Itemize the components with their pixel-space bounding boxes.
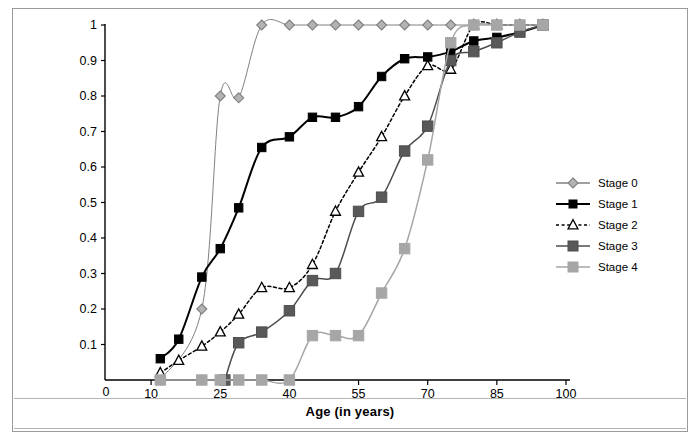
data-point-stage-0	[197, 304, 207, 314]
y-tick-label: 0.6	[80, 160, 97, 174]
data-point-stage-4	[399, 243, 409, 253]
data-point-stage-1	[156, 355, 164, 363]
data-point-stage-4	[197, 375, 207, 385]
y-tick-label: 1	[90, 18, 97, 32]
legend-marker-icon	[568, 178, 578, 188]
legend-label: Stage 1	[598, 198, 638, 210]
legend-key-diamond-icon	[552, 176, 594, 190]
y-tick-label: 0.1	[80, 338, 97, 352]
data-point-stage-0	[354, 20, 364, 30]
data-point-stage-2	[423, 60, 433, 69]
legend-label: Stage 2	[598, 219, 638, 231]
y-tick-label: 0.8	[80, 89, 97, 103]
y-tick-label: 0.2	[80, 302, 97, 316]
data-point-stage-3	[469, 46, 479, 56]
data-point-stage-0	[234, 93, 244, 103]
data-point-stage-0	[400, 20, 410, 30]
series-line	[160, 22, 543, 373]
data-point-stage-4	[215, 375, 225, 385]
data-point-stage-1	[377, 72, 385, 80]
data-point-stage-1	[354, 102, 362, 110]
data-point-stage-1	[285, 133, 293, 141]
data-point-stage-4	[353, 330, 363, 340]
data-point-stage-2	[354, 167, 364, 176]
data-point-stage-3	[423, 121, 433, 131]
data-point-stage-2	[377, 131, 387, 140]
legend-key-triangle-icon	[552, 218, 594, 232]
x-axis-title: Age (in years)	[0, 404, 700, 419]
divider-below-axis-title	[14, 428, 686, 429]
data-point-stage-2	[215, 327, 225, 336]
data-point-stage-3	[376, 192, 386, 202]
chart-legend: Stage 0 Stage 1 Stage 2 Stage 3 Stage 4	[552, 172, 672, 277]
legend-key-square-icon	[552, 197, 594, 211]
data-point-stage-4	[307, 330, 317, 340]
series-line	[160, 25, 543, 359]
data-point-stage-1	[198, 273, 206, 281]
data-point-stage-3	[353, 206, 363, 216]
data-point-stage-4	[446, 38, 456, 48]
data-point-stage-3	[399, 146, 409, 156]
data-point-stage-4	[538, 20, 548, 30]
data-point-stage-4	[469, 20, 479, 30]
data-point-stage-0	[377, 20, 387, 30]
data-point-stage-3	[233, 338, 243, 348]
series-stage-4	[155, 20, 548, 385]
y-tick-label: 0.7	[80, 125, 97, 139]
legend-key-square-icon	[552, 239, 594, 253]
data-point-stage-2	[197, 341, 207, 350]
data-series	[155, 20, 548, 386]
data-point-stage-4	[492, 20, 502, 30]
data-point-stage-2	[331, 206, 341, 215]
data-point-stage-0	[446, 20, 456, 30]
data-point-stage-1	[258, 143, 266, 151]
data-point-stage-4	[376, 288, 386, 298]
legend-label: Stage 0	[598, 177, 638, 189]
legend-label: Stage 3	[598, 240, 638, 252]
y-tick-label: 0.4	[80, 231, 97, 245]
data-point-stage-4	[233, 375, 243, 385]
data-point-stage-4	[155, 375, 165, 385]
legend-marker-icon	[568, 219, 578, 228]
y-tick-label: 0	[103, 385, 110, 399]
series-stage-0	[155, 20, 548, 385]
data-point-stage-3	[330, 268, 340, 278]
legend-marker-icon	[569, 200, 577, 208]
data-point-stage-0	[423, 20, 433, 30]
data-point-stage-0	[307, 20, 317, 30]
legend-item-stage-2[interactable]: Stage 2	[552, 214, 672, 235]
series-line	[160, 24, 543, 384]
data-point-stage-2	[400, 91, 410, 100]
data-point-stage-3	[492, 38, 502, 48]
legend-marker-icon	[568, 241, 578, 251]
data-point-stage-4	[515, 20, 525, 30]
legend-item-stage-1[interactable]: Stage 1	[552, 193, 672, 214]
data-point-stage-1	[234, 204, 242, 212]
data-point-stage-3	[257, 327, 267, 337]
data-point-stage-1	[331, 113, 339, 121]
data-point-stage-0	[331, 20, 341, 30]
data-point-stage-1	[175, 335, 183, 343]
tick-labels: 00.10.20.30.40.50.60.70.80.9110254055708…	[80, 18, 577, 401]
data-point-stage-0	[215, 91, 225, 101]
data-point-stage-0	[284, 20, 294, 30]
legend-marker-icon	[568, 262, 578, 272]
series-line	[160, 20, 543, 380]
series-stage-1	[156, 21, 547, 363]
data-point-stage-4	[257, 375, 267, 385]
data-point-stage-1	[470, 37, 478, 45]
legend-item-stage-4[interactable]: Stage 4	[552, 256, 672, 277]
series-stage-2	[155, 20, 548, 377]
data-point-stage-4	[423, 155, 433, 165]
data-point-stage-3	[307, 275, 317, 285]
legend-item-stage-0[interactable]: Stage 0	[552, 172, 672, 193]
data-point-stage-3	[284, 306, 294, 316]
data-point-stage-1	[308, 113, 316, 121]
y-tick-label: 0.9	[80, 54, 97, 68]
data-point-stage-1	[216, 244, 224, 252]
data-point-stage-4	[284, 375, 294, 385]
data-point-stage-4	[330, 330, 340, 340]
data-point-stage-2	[284, 282, 294, 291]
legend-item-stage-3[interactable]: Stage 3	[552, 235, 672, 256]
divider-above-axis-title	[14, 398, 686, 399]
